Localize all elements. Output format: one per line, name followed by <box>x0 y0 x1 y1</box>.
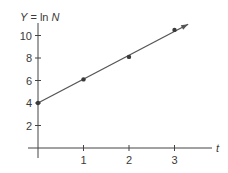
x-tick-label: 1 <box>80 154 86 166</box>
y-axis-title: Y = ln N <box>20 11 60 23</box>
x-axis-title: t <box>216 142 220 154</box>
data-point <box>36 101 40 105</box>
data-point <box>127 55 131 59</box>
x-tick-label: 2 <box>126 154 132 166</box>
arrowhead-icon <box>181 24 188 30</box>
fit-line <box>38 24 188 103</box>
y-tick-label: 2 <box>26 120 32 132</box>
x-tick-label: 3 <box>171 154 177 166</box>
y-tick-label: 4 <box>26 97 32 109</box>
y-tick-label: 10 <box>20 30 32 42</box>
svg-text:Y = ln N: Y = ln N <box>20 11 60 23</box>
chart: Y = ln N t 246810 123 <box>0 0 228 173</box>
data-point <box>172 28 176 32</box>
data-point <box>81 77 85 81</box>
y-tick-label: 6 <box>26 75 32 87</box>
y-tick-label: 8 <box>26 52 32 64</box>
data-series <box>36 24 188 105</box>
